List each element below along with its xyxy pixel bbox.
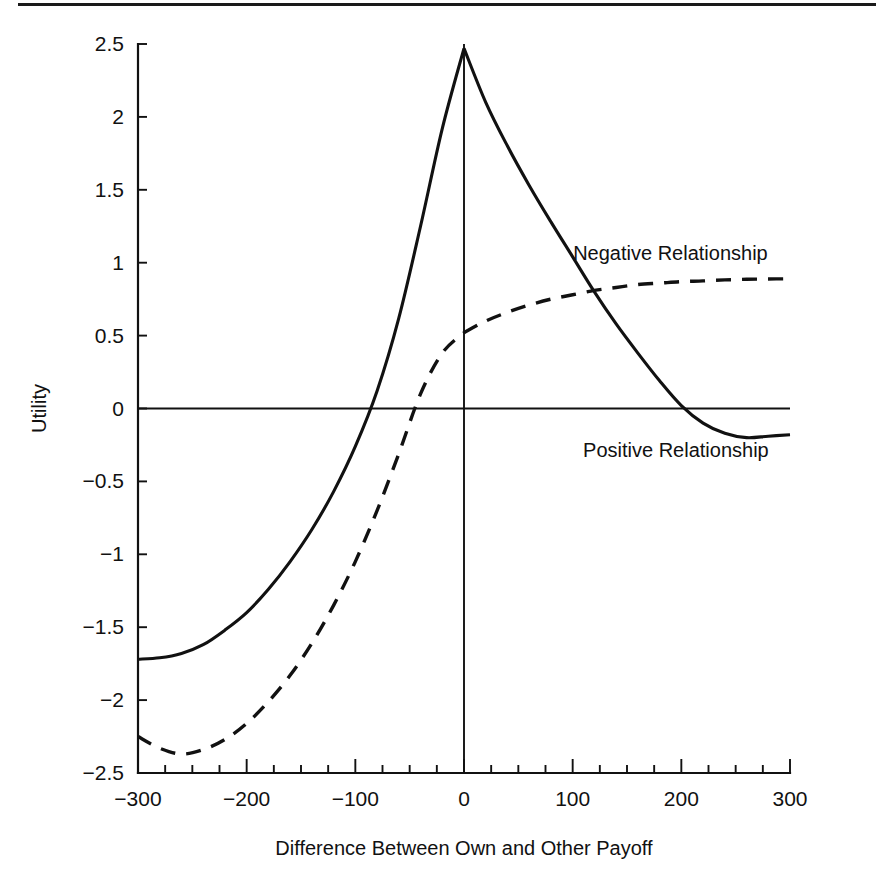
x-tick-label: 100 — [555, 787, 590, 810]
y-tick-label: −1 — [100, 542, 124, 565]
y-tick-label: 0.5 — [95, 324, 124, 347]
y-axis-tick-labels: −2.5−2−1.5−1−0.500.511.522.5 — [83, 32, 124, 784]
chart-canvas: −2.5−2−1.5−1−0.500.511.522.5 −300−200−10… — [0, 0, 891, 890]
y-tick-label: −2 — [100, 688, 124, 711]
y-tick-label: 0 — [112, 397, 124, 420]
x-axis-tick-labels: −300−200−1000100200300 — [114, 787, 807, 810]
x-tick-label: −300 — [114, 787, 161, 810]
x-axis-ticks — [138, 759, 790, 773]
x-tick-label: −100 — [332, 787, 379, 810]
figure-container: −2.5−2−1.5−1−0.500.511.522.5 −300−200−10… — [0, 0, 891, 890]
annotation-positive-relationship: Positive Relationship — [583, 439, 769, 461]
y-tick-label: −2.5 — [83, 761, 124, 784]
y-tick-label: 1.5 — [95, 178, 124, 201]
x-tick-label: −200 — [223, 787, 270, 810]
y-axis-ticks — [138, 44, 147, 773]
y-tick-label: 2.5 — [95, 32, 124, 55]
y-tick-label: 2 — [112, 105, 124, 128]
y-tick-label: −1.5 — [83, 615, 124, 638]
y-tick-label: −0.5 — [83, 469, 124, 492]
x-axis-title: Difference Between Own and Other Payoff — [275, 837, 653, 859]
x-tick-label: 300 — [772, 787, 807, 810]
x-tick-label: 0 — [458, 787, 470, 810]
annotation-negative-relationship: Negative Relationship — [573, 242, 768, 264]
y-axis-title: Utility — [28, 384, 50, 433]
y-tick-label: 1 — [112, 251, 124, 274]
x-tick-label: 200 — [664, 787, 699, 810]
